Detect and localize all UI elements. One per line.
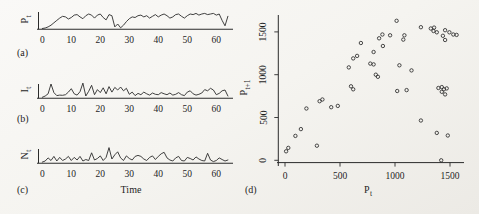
x-tick-label: 20 xyxy=(96,169,106,179)
x-tick-label: 60 xyxy=(212,35,222,45)
x-tick-label: 50 xyxy=(183,35,193,45)
scatter-point xyxy=(448,31,451,34)
panel-a-ylabel-base: P xyxy=(19,18,30,24)
scatter-point xyxy=(443,38,446,41)
scatter-point xyxy=(372,63,375,66)
x-tick-label: 30 xyxy=(125,169,135,179)
scatter-point xyxy=(347,66,350,69)
panel-d-xlabel: Pt xyxy=(352,184,384,197)
scatter-point xyxy=(369,62,372,65)
panel-b-tag: (b) xyxy=(17,113,29,125)
scatter-point xyxy=(395,19,398,22)
x-tick-label: 20 xyxy=(96,104,106,114)
panel-c-ylabel-base: N xyxy=(19,152,30,159)
scatter-point xyxy=(443,93,446,96)
x-tick-label: 40 xyxy=(154,104,164,114)
scatter-point xyxy=(315,144,318,147)
panel-a-ylabel: Pt xyxy=(19,15,32,23)
x-tick-label: 0 xyxy=(283,171,288,181)
scatter-point xyxy=(388,34,391,37)
scatter-point xyxy=(336,104,339,107)
x-tick-label: 500 xyxy=(333,171,348,181)
scatter-point xyxy=(441,34,444,37)
x-tick-label: 0 xyxy=(40,169,45,179)
figure-population-dynamics: 0102030405060010203040506001020304050600… xyxy=(0,0,479,214)
scatter-point xyxy=(294,134,297,137)
panel-a-ylabel-sub: t xyxy=(23,15,32,17)
scatter-point xyxy=(381,44,384,47)
x-tick-label: 10 xyxy=(67,104,77,114)
y-tick-label: 1000 xyxy=(259,65,269,84)
x-tick-label: 10 xyxy=(67,35,77,45)
scatter-point xyxy=(455,33,458,36)
series-line xyxy=(42,83,228,97)
scatter-point xyxy=(452,33,455,36)
x-tick-label: 60 xyxy=(212,169,222,179)
panel-c-tag: (c) xyxy=(17,184,28,196)
scatter-point xyxy=(381,33,384,36)
panel-d-tag: (d) xyxy=(245,184,257,196)
x-tick-label: 1500 xyxy=(441,171,460,181)
x-tick-label: 60 xyxy=(212,104,222,114)
scatter-point xyxy=(405,88,408,91)
scatter-point xyxy=(402,38,405,41)
panel-c-ylabel-sub: t xyxy=(24,150,33,152)
x-tick-label: 10 xyxy=(67,169,77,179)
scatter-point xyxy=(321,98,324,101)
x-tick-label: 50 xyxy=(183,104,193,114)
x-tick-label: 0 xyxy=(40,104,45,114)
panel-d-xlabel-base: P xyxy=(364,184,370,195)
scatter-point xyxy=(443,29,446,32)
y-tick-label: 1500 xyxy=(259,22,269,41)
scatter-point xyxy=(435,31,438,34)
scatter-point xyxy=(372,50,375,53)
panel-d-ylabel-base: P xyxy=(238,90,249,96)
x-tick-label: 40 xyxy=(154,35,164,45)
scatter-point xyxy=(440,159,443,162)
y-tick-label: 0 xyxy=(259,158,269,163)
scatter-point xyxy=(359,41,362,44)
scatter-point xyxy=(287,146,290,149)
scatter-point xyxy=(355,54,358,57)
scatter-point xyxy=(352,57,355,60)
panel-d-xlabel-sub: t xyxy=(370,189,372,198)
x-tick-label: 40 xyxy=(154,169,164,179)
x-tick-label: 20 xyxy=(96,35,106,45)
scatter-point xyxy=(284,150,287,153)
scatter-point xyxy=(446,134,449,137)
series-line xyxy=(42,13,228,28)
charts-canvas: 0102030405060010203040506001020304050600… xyxy=(0,0,479,214)
scatter-point xyxy=(403,34,406,37)
x-tick-label: 0 xyxy=(40,35,45,45)
panel-b-ylabel-base: I xyxy=(19,89,30,92)
panel-b-ylabel: It xyxy=(19,87,32,93)
x-tick-label: 1000 xyxy=(386,171,405,181)
scatter-point xyxy=(419,119,422,122)
panel-a-tag: (a) xyxy=(17,47,28,59)
y-tick-label: 500 xyxy=(259,110,269,125)
panel-c-chart: 0102030405060 xyxy=(37,148,233,179)
scatter-point xyxy=(299,127,302,130)
scatter-point xyxy=(435,131,438,134)
scatter-point xyxy=(352,88,355,91)
x-tick-label: 50 xyxy=(183,169,193,179)
scatter-point xyxy=(377,37,380,40)
scatter-point xyxy=(396,89,399,92)
panel-c-xlabel: Time xyxy=(108,184,154,196)
panel-d-chart: 050010001500050010001500 xyxy=(259,15,465,181)
panel-d-ylabel-sub: t+1 xyxy=(242,79,251,89)
scatter-point xyxy=(437,86,440,89)
panel-b-chart: 0102030405060 xyxy=(37,83,233,114)
panel-a-chart: 0102030405060 xyxy=(37,12,233,45)
scatter-point xyxy=(410,69,413,72)
scatter-point xyxy=(419,26,422,29)
scatter-point xyxy=(432,26,435,29)
scatter-point xyxy=(398,64,401,67)
scatter-point xyxy=(305,107,308,110)
x-tick-label: 30 xyxy=(125,104,135,114)
panel-b-ylabel-sub: t xyxy=(24,87,33,89)
panel-d-ylabel: Pt+1 xyxy=(238,79,251,95)
series-line xyxy=(42,148,228,163)
x-tick-label: 30 xyxy=(125,35,135,45)
scatter-point xyxy=(376,75,379,78)
